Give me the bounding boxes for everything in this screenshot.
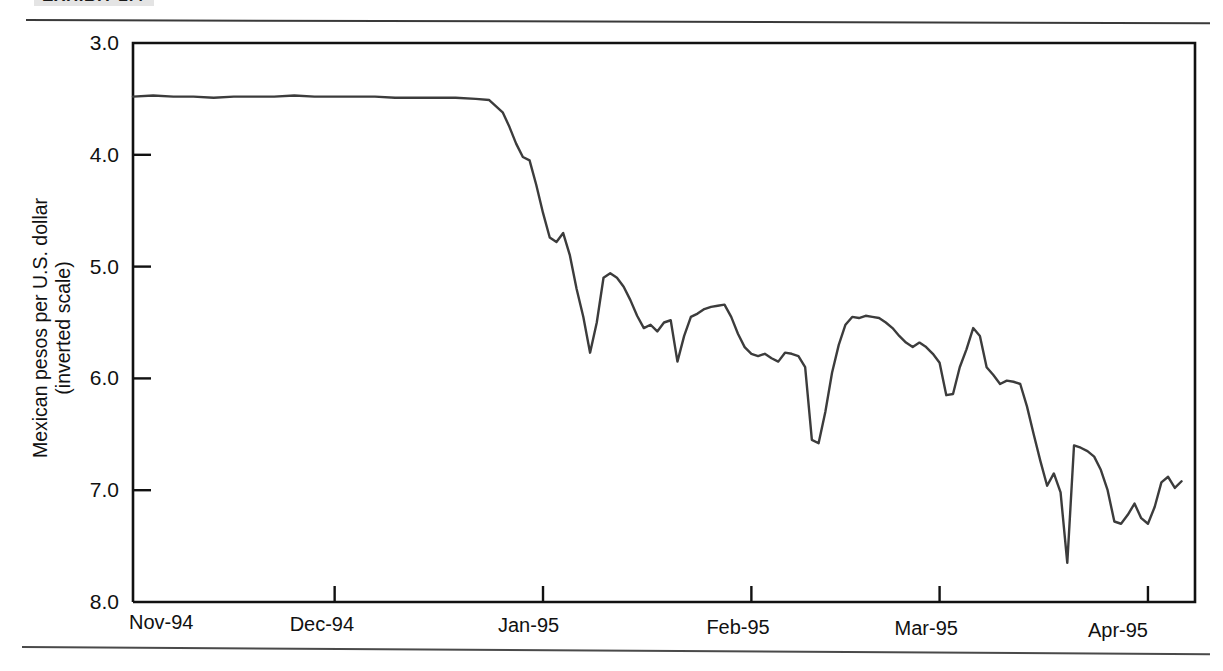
data-line-mexican-peso-per-u.s.-dollar xyxy=(133,96,1182,563)
y-tick-label-7.0: 7.0 xyxy=(49,479,119,500)
chart-plot-area: 3.04.05.06.07.08.0 Nov-94Dec-94Jan-95Feb… xyxy=(0,0,1223,671)
x-tick-label-Apr-95: Apr-95 xyxy=(1088,620,1148,640)
y-tick-label-4.0: 4.0 xyxy=(49,144,119,165)
x-tick-label-Nov-94: Nov-94 xyxy=(129,612,193,632)
x-tick-label-Jan-95: Jan-95 xyxy=(498,615,559,635)
x-tick-label-Mar-95: Mar-95 xyxy=(895,618,958,638)
y-tick-label-8.0: 8.0 xyxy=(49,591,119,612)
y-tick-label-5.0: 5.0 xyxy=(49,256,119,277)
y-tick-label-6.0: 6.0 xyxy=(49,367,119,388)
x-tick-label-Feb-95: Feb-95 xyxy=(706,617,769,637)
y-tick-label-3.0: 3.0 xyxy=(49,32,119,53)
exhibit-page: EXHIBIT 2.4 THE PESO'S PLUNGE Mexican pe… xyxy=(0,0,1223,671)
chart-series xyxy=(133,96,1182,563)
peso-plunge-line-chart xyxy=(0,0,1223,671)
x-tick-label-Dec-94: Dec-94 xyxy=(290,614,354,634)
